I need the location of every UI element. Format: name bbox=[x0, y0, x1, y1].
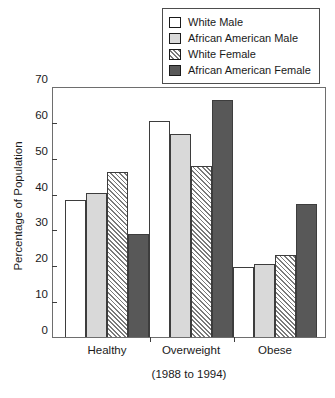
y-tick-mark bbox=[52, 123, 57, 124]
y-tick-label: 50 bbox=[35, 146, 48, 158]
y-tick-label: 10 bbox=[35, 289, 48, 301]
x-axis-category-labels: HealthyOverweightObese bbox=[52, 344, 326, 360]
y-tick-mark bbox=[52, 195, 57, 196]
y-tick-mark bbox=[52, 159, 57, 160]
plot-area bbox=[52, 87, 326, 338]
legend-swatch-white-female bbox=[169, 49, 181, 60]
chart-legend: White Male African American Male White F… bbox=[162, 8, 320, 84]
legend-item-african-american-female: African American Female bbox=[169, 62, 311, 78]
legend-label-african-american-female: African American Female bbox=[188, 65, 311, 76]
chart-plot-wrapper: Percentage of Population 010203040506070… bbox=[0, 80, 335, 398]
x-tick-mark bbox=[150, 337, 151, 342]
legend-label-white-male: White Male bbox=[188, 17, 243, 28]
bar bbox=[170, 134, 191, 337]
x-axis-title: (1988 to 1994) bbox=[52, 368, 326, 380]
y-tick-label: 30 bbox=[35, 218, 48, 230]
bar bbox=[254, 264, 275, 337]
legend-item-white-male: White Male bbox=[169, 14, 311, 30]
x-category-label: Overweight bbox=[162, 344, 220, 356]
bar bbox=[296, 204, 317, 337]
legend-swatch-white-male bbox=[169, 17, 181, 28]
x-category-label: Obese bbox=[258, 344, 292, 356]
bar-group-overweight bbox=[149, 88, 233, 337]
bar bbox=[86, 193, 107, 337]
x-tick-mark bbox=[234, 337, 235, 342]
bar-groups bbox=[53, 88, 325, 337]
legend-swatch-african-american-male bbox=[169, 33, 181, 44]
y-tick-mark bbox=[52, 302, 57, 303]
bar bbox=[191, 166, 212, 337]
y-tick-mark bbox=[52, 230, 57, 231]
bar bbox=[65, 200, 86, 337]
y-tick-label: 70 bbox=[35, 74, 48, 86]
bar-group-healthy bbox=[65, 88, 149, 337]
x-category-label: Healthy bbox=[88, 344, 127, 356]
y-tick-mark bbox=[52, 266, 57, 267]
bar bbox=[212, 100, 233, 337]
legend-item-white-female: White Female bbox=[169, 46, 311, 62]
bar bbox=[149, 121, 170, 337]
bar-group-obese bbox=[233, 88, 317, 337]
y-axis-ticks: 010203040506070 bbox=[18, 80, 48, 338]
bar bbox=[128, 234, 149, 337]
bar bbox=[233, 267, 254, 337]
y-tick-label: 20 bbox=[35, 254, 48, 266]
y-tick-label: 40 bbox=[35, 182, 48, 194]
y-tick-label: 60 bbox=[35, 110, 48, 122]
bar bbox=[275, 255, 296, 337]
y-tick-label: 0 bbox=[42, 325, 48, 337]
legend-label-african-american-male: African American Male bbox=[188, 33, 298, 44]
bar bbox=[107, 172, 128, 337]
legend-label-white-female: White Female bbox=[188, 49, 256, 60]
legend-swatch-african-american-female bbox=[169, 65, 181, 76]
legend-item-african-american-male: African American Male bbox=[169, 30, 311, 46]
